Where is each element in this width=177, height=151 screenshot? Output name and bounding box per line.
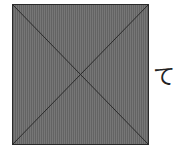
diagonal-lines xyxy=(13,5,148,144)
side-label: て xyxy=(152,64,176,90)
crossed-square xyxy=(12,4,149,145)
